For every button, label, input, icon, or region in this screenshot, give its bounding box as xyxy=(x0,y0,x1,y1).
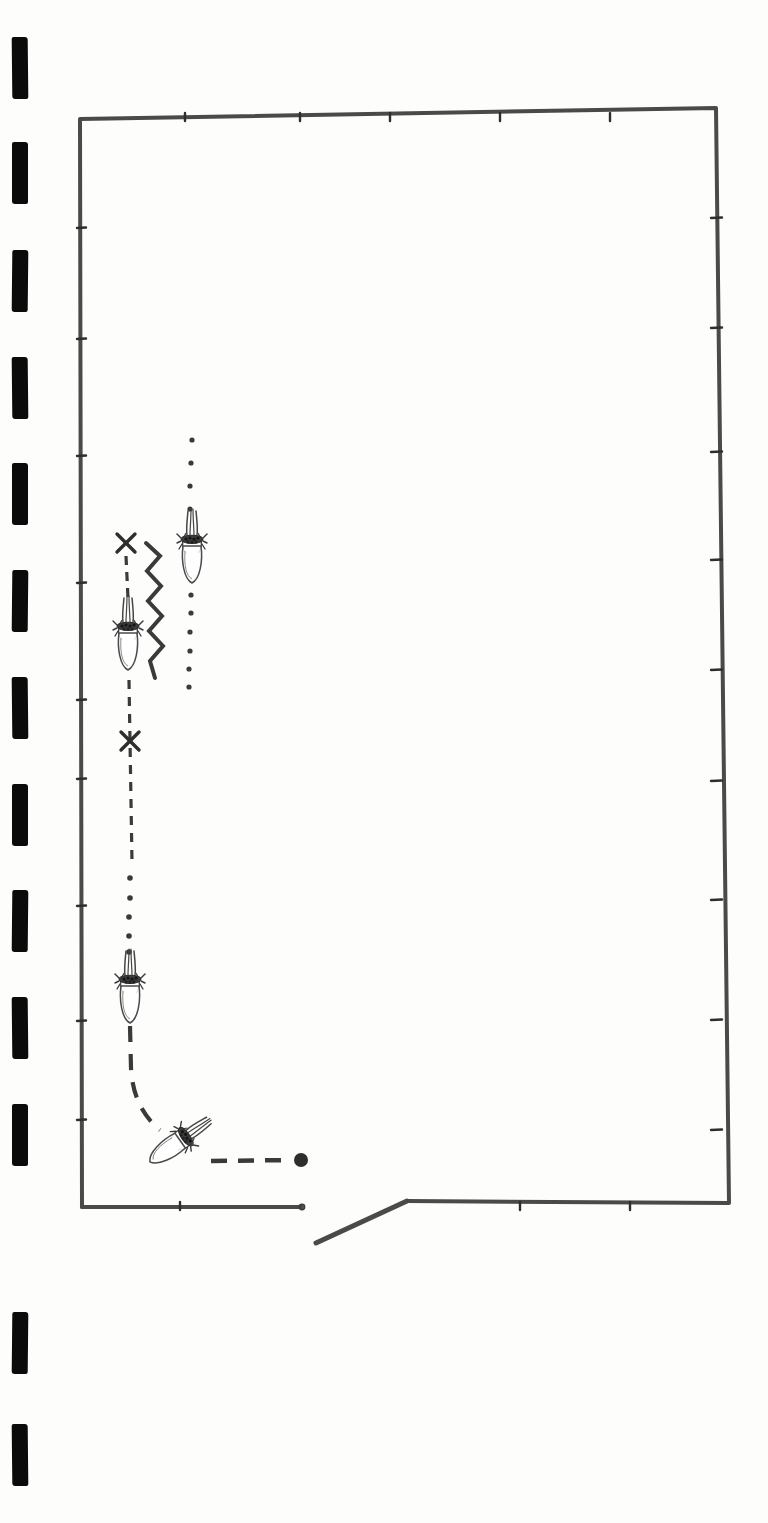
scanned-figure-page: Hand-drawn bee waggle dance diagram on c… xyxy=(0,0,768,1523)
hive-entrance-ramp xyxy=(316,1201,407,1243)
bee-figure xyxy=(141,1107,219,1174)
frame-tick-left xyxy=(77,456,86,457)
bee-figure xyxy=(115,949,145,1023)
bee-flight-paths xyxy=(126,437,308,1167)
frame-tick-left xyxy=(77,339,86,340)
frame-tick-left xyxy=(77,1120,86,1121)
path-dot xyxy=(186,684,191,689)
path-dot xyxy=(126,914,132,920)
frame-tick-right xyxy=(711,328,722,329)
frame-tick-right xyxy=(711,218,722,219)
frame-tick-right xyxy=(711,670,722,671)
frame-tick-right xyxy=(711,560,722,561)
comb-frame-outline xyxy=(77,108,729,1243)
path-dot xyxy=(187,629,192,634)
ink-drawing-layer xyxy=(0,0,768,1523)
frame-tick-left xyxy=(77,906,86,907)
path-dot xyxy=(189,437,194,442)
path-dot xyxy=(188,460,193,465)
dashed-curve-segment xyxy=(130,1026,160,1130)
frame-tick-left xyxy=(77,1021,86,1022)
frame-tick-left xyxy=(77,583,86,584)
frame-tick-right xyxy=(711,900,722,901)
path-dot xyxy=(188,592,193,597)
bee-figure xyxy=(177,509,207,583)
frame-tick-left xyxy=(77,228,86,229)
path-terminus-dot xyxy=(294,1153,308,1167)
frame-tick-right xyxy=(711,781,722,782)
frame-main-outline xyxy=(80,108,729,1207)
path-dot xyxy=(188,610,193,615)
path-dot xyxy=(127,875,133,881)
path-dot xyxy=(186,666,191,671)
bee-figure xyxy=(113,596,143,670)
dashed-path-segment xyxy=(126,556,128,598)
frame-tick-right xyxy=(711,1130,722,1131)
path-dot xyxy=(187,648,192,653)
frame-tick-left xyxy=(77,779,86,780)
zigzag-waggle-line xyxy=(146,543,163,678)
frame-tick-right xyxy=(711,452,722,453)
bee-figures-group xyxy=(113,509,219,1174)
frame-tick-right xyxy=(711,1020,722,1021)
path-dot xyxy=(126,933,132,939)
frame-tick-left xyxy=(77,700,86,701)
zigzag-waggle-stroke xyxy=(146,543,163,678)
path-dot xyxy=(127,895,133,901)
path-dot xyxy=(187,483,192,488)
x-mark-upper xyxy=(117,534,135,552)
dashed-path-segment xyxy=(211,1160,292,1161)
dashed-path-segment xyxy=(129,680,132,862)
